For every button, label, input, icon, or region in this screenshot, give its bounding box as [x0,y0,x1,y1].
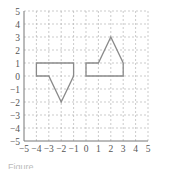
x-tick-label: 4 [133,144,138,154]
x-tick-labels: −5−4−3−2−1012345 [19,144,151,154]
x-tick-label: 2 [108,144,113,154]
y-tick-label: −4 [10,124,20,134]
x-tick-label: 3 [121,144,126,154]
x-tick-label: −5 [19,144,29,154]
y-tick-label: 1 [15,59,20,69]
y-tick-label: 5 [15,7,20,17]
x-tick-label: 5 [146,144,151,154]
y-tick-label: −2 [10,98,20,108]
y-tick-label: 3 [15,33,20,43]
x-tick-label: 1 [96,144,101,154]
y-tick-label: −5 [10,137,20,147]
x-tick-label: 0 [84,144,89,154]
coordinate-plane-chart: −5−4−3−2−1012345 −5−4−3−2−1012345 [0,0,170,160]
left-polygon [36,63,73,102]
y-tick-label: 0 [15,72,20,82]
y-tick-label: −3 [10,111,20,121]
x-tick-label: −3 [44,144,54,154]
y-tick-label: −1 [10,85,20,95]
y-tick-labels: −5−4−3−2−1012345 [10,7,20,147]
right-polygon [86,37,123,76]
y-tick-label: 4 [15,20,20,30]
polygons [36,37,123,102]
x-tick-label: −4 [31,144,41,154]
x-tick-label: −2 [56,144,66,154]
y-tick-label: 2 [15,46,20,56]
figure-caption: Figure [8,162,34,169]
x-tick-label: −1 [69,144,79,154]
